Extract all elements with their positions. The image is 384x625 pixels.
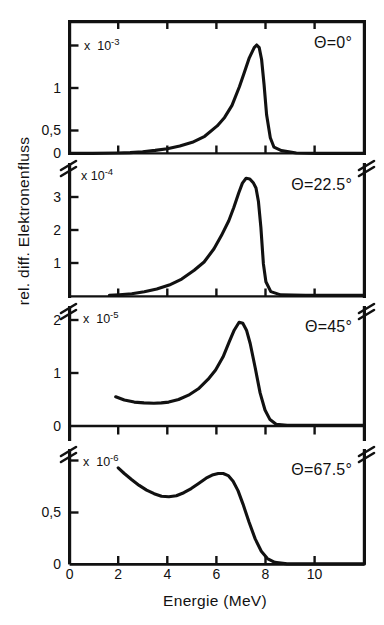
panel-1-theta-label: Θ=22.5° <box>291 176 352 194</box>
panel-3-ytick-1: 0,5 <box>42 504 61 520</box>
x-tick-2: 2 <box>114 566 122 582</box>
panel-3-scale-base: 10 <box>96 455 110 469</box>
panel-theta-22-5: 1 2 3 x 10-4 Θ=22.5° <box>68 163 366 298</box>
panel-3-scale-prefix: x <box>83 455 89 469</box>
x-tick-8: 8 <box>262 566 270 582</box>
panel-0-scale-factor: x 10-3 <box>84 36 120 53</box>
panel-2-ticks <box>70 320 315 435</box>
panel-theta-0: 0 0,5 1 x 10-3 Θ=0° <box>68 20 366 155</box>
panel-2-ytick-2: 2 <box>53 312 61 328</box>
x-axis-title-wrap: Energie (MeV) <box>0 592 384 610</box>
panel-2-curve <box>116 322 365 425</box>
panel-2-theta-label: Θ=45° <box>305 318 352 336</box>
panel-0-scale-base: 10 <box>97 39 111 53</box>
panel-1-scale-power: -4 <box>105 166 113 177</box>
panel-3-scale-factor: x 10-6 <box>83 452 119 469</box>
panel-3-curve <box>118 468 364 564</box>
panel-1-scale-base: 10 <box>91 169 105 183</box>
y-axis-title: rel. diff. Elektronenfluss <box>15 71 33 371</box>
panel-1-ytick-2: 3 <box>53 189 61 205</box>
panel-theta-45: 0 1 2 x 10-5 Θ=45° <box>68 306 366 441</box>
panel-0-scale-power: -3 <box>111 36 119 47</box>
x-tick-0: 0 <box>66 566 74 582</box>
panel-2-scale-power: -5 <box>110 309 118 320</box>
panel-0-scale-prefix: x <box>84 39 90 53</box>
panel-0-curve <box>70 45 365 153</box>
panel-3-scale-power: -6 <box>110 452 118 463</box>
panel-1-ytick-1: 2 <box>53 222 61 238</box>
panel-3-ticks <box>70 461 315 565</box>
panel-2-scale-prefix: x <box>83 312 89 326</box>
panel-0-ytick-2: 1 <box>53 80 61 96</box>
panel-1-ticks <box>70 197 315 296</box>
panel-1-scale-prefix: x <box>81 169 87 183</box>
x-axis-title: Energie (MeV) <box>163 592 267 610</box>
x-axis-tick-labels: 0 2 4 6 8 10 <box>68 566 366 586</box>
panel-0-theta-label: Θ=0° <box>314 34 352 52</box>
panel-2-ytick-1: 1 <box>53 365 61 381</box>
panel-2-scale-base: 10 <box>96 312 110 326</box>
panel-2-ytick-0: 0 <box>53 418 61 434</box>
panel-2-scale-factor: x 10-5 <box>83 309 119 326</box>
panel-3-theta-label: Θ=67.5° <box>291 461 352 479</box>
x-tick-6: 6 <box>212 566 220 582</box>
panel-0-ytick-0: 0 <box>53 145 61 161</box>
x-tick-4: 4 <box>163 566 171 582</box>
panel-1-ytick-0: 1 <box>53 255 61 271</box>
panel-1-curve <box>109 178 364 295</box>
x-tick-10: 10 <box>307 566 323 582</box>
panel-theta-67-5: 0 0,5 x 10-6 Θ=67.5° <box>68 449 366 566</box>
figure-root: rel. diff. Elektronenfluss <box>0 0 384 625</box>
panel-1-scale-factor: x 10-4 <box>81 166 113 183</box>
panel-0-ytick-1: 0,5 <box>42 122 61 138</box>
panel-3-ytick-0: 0 <box>53 556 61 572</box>
